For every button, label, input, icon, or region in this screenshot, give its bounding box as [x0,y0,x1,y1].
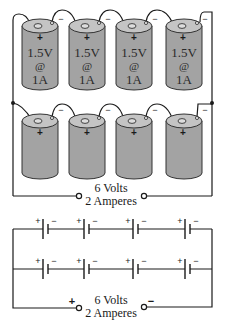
schematic-negative-label: − [193,216,198,226]
cell-positive-label: + [37,127,43,138]
schematic-negative-label: − [92,256,97,266]
battery-symbol-icon [84,259,89,279]
schematic-output-voltage: 6 Volts [94,293,128,307]
output-terminal-positive [76,193,81,198]
positive-terminal-icon [34,24,42,29]
battery-symbol-icon [185,219,190,239]
battery-symbol-icon [43,219,48,239]
negative-terminal-icon [195,116,198,119]
schematic-terminal-positive [76,305,81,310]
bottom-row-cells [22,114,202,179]
pictorial-output-voltage: 6 Volts [94,181,128,195]
cell-positive-label: + [131,127,137,138]
positive-terminal-icon [178,119,186,124]
battery-symbol-icon [133,219,138,239]
positive-terminal-icon [81,119,89,124]
negative-terminal-icon [144,116,147,119]
schematic-positive-label: + [76,256,81,266]
cell-positive-label: + [84,127,90,138]
cell-voltage-label: 1.5V [27,45,53,60]
schematic-negative-label: − [141,216,146,226]
battery-cell [116,114,152,179]
schematic-positive-label: + [125,256,130,266]
battery-symbol-icon [133,259,138,279]
schematic-right-rail [147,229,212,307]
positive-terminal-icon [81,24,89,29]
cell-positive-label: + [180,127,186,138]
cell-current-label: 1A [79,72,96,87]
cell-negative-label: − [152,14,157,24]
cell-positive-label: + [37,32,43,43]
cell-negative-label: − [58,14,63,24]
left-junction-dot [11,101,15,105]
positive-terminal-icon [178,24,186,29]
battery-cell [166,114,202,179]
cell-at-label: @ [129,60,139,72]
cell-at-label: @ [179,60,189,72]
schematic-positive-label: + [177,216,182,226]
negative-terminal-icon [50,21,53,24]
negative-terminal-icon [97,116,100,119]
schematic-negative-label: − [92,216,97,226]
cell-negative-label: − [152,105,157,115]
battery-cell [22,114,58,179]
negative-terminal-icon [195,21,198,24]
cell-negative-label: − [105,105,110,115]
negative-terminal-icon [97,21,100,24]
schematic-negative-label: − [51,216,56,226]
diagram-svg: + + + + − − − − 1.5V 1.5V 1.5V 1.5V @ @ … [0,0,226,330]
schematic-positive-label: + [177,256,182,266]
schematic-negative-label: − [193,256,198,266]
schematic-terminal-negative [141,304,146,309]
negative-terminal-icon [144,21,147,24]
cell-negative-label: − [58,105,63,115]
schematic-row-1-labels: + − + − + − + − [35,216,198,226]
battery-diagram: + + + + − − − − 1.5V 1.5V 1.5V 1.5V @ @ … [0,0,226,330]
schematic-positive-label: + [125,216,130,226]
cell-negative-label: − [105,14,110,24]
output-terminal-negative [141,193,146,198]
cell-current-label: 1A [32,72,49,87]
cell-at-label: @ [35,60,45,72]
cell-positive-label: + [180,32,186,43]
cell-at-label: @ [82,60,92,72]
battery-cell [69,114,105,179]
cell-current-label: 1A [126,72,143,87]
positive-terminal-icon [34,119,42,124]
battery-symbol-icon [43,259,48,279]
cell-voltage-label: 1.5V [171,45,197,60]
negative-terminal-icon [50,116,53,119]
cell-current-label: 1A [176,72,193,87]
cell-positive-label: + [131,32,137,43]
schematic-output-positive-label: + [69,295,75,307]
schematic-output-negative-label: − [148,295,154,307]
schematic-negative-label: − [141,256,146,266]
pictorial-output-current: 2 Amperes [85,194,137,208]
schematic-positive-label: + [35,256,40,266]
right-junction-dot [210,101,214,105]
schematic-positive-label: + [76,216,81,226]
positive-terminal-icon [128,119,136,124]
schematic-row-2-labels: + − + − + − + − [35,256,198,266]
cell-voltage-label: 1.5V [74,45,100,60]
cell-negative-label: − [202,14,207,24]
cell-positive-label: + [84,32,90,43]
cell-negative-label: − [202,105,207,115]
cell-voltage-label: 1.5V [121,45,147,60]
battery-symbol-icon [185,259,190,279]
schematic-output-current: 2 Amperes [85,306,137,320]
battery-symbol-icon [84,219,89,239]
positive-terminal-icon [128,24,136,29]
schematic-negative-label: − [51,256,56,266]
schematic-positive-label: + [35,216,40,226]
